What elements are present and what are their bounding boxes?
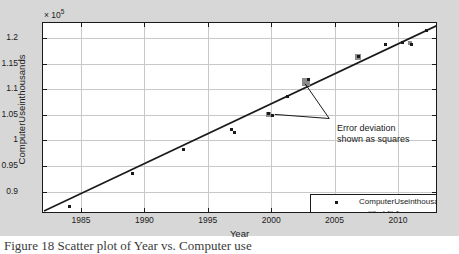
gridline-vertical <box>81 23 82 212</box>
data-point <box>425 29 428 32</box>
y-axis-tick <box>43 192 47 193</box>
y-axis-tick-right <box>432 115 436 116</box>
legend-entry-fit[interactable]: untitled fit 1 <box>311 208 437 213</box>
gridline-vertical <box>398 23 399 212</box>
x-axis-tick <box>144 208 145 212</box>
y-axis-tick-label: 1 <box>13 135 18 144</box>
gridline-vertical <box>271 23 272 212</box>
annotation-label: Error deviation shown as squares <box>337 123 410 145</box>
x-axis-tick-top <box>81 23 82 27</box>
annotation-line-2: shown as squares <box>337 134 410 145</box>
x-axis-tick-top <box>208 23 209 27</box>
y-axis-tick-label: 1.1 <box>6 84 18 93</box>
y-axis-tick-right <box>432 140 436 141</box>
y-axis-exponent-base: 10 <box>51 10 60 20</box>
gridline-vertical <box>208 23 209 212</box>
annotation-line-1: Error deviation <box>337 123 410 134</box>
gridline-horizontal <box>43 38 436 39</box>
data-point <box>307 78 310 81</box>
y-axis-exponent-label: × 105 <box>44 8 64 20</box>
figure-page: × 105 ComputerUseinthousands Year 0.90.9… <box>0 0 459 254</box>
x-axis-tick <box>81 208 82 212</box>
data-point <box>68 205 71 208</box>
y-axis-tick-right <box>432 89 436 90</box>
y-axis-tick-label: 0.9 <box>6 187 18 196</box>
gridline-horizontal <box>43 192 436 193</box>
data-point <box>271 114 274 117</box>
legend-label-fit: untitled fit 1 <box>359 209 400 213</box>
y-axis-exponent-power: 5 <box>61 8 65 15</box>
x-axis-tick <box>208 208 209 212</box>
gridline-vertical <box>144 23 145 212</box>
data-point <box>357 55 360 58</box>
x-axis-tick-top <box>398 23 399 27</box>
y-axis-tick-right <box>432 192 436 193</box>
gridline-vertical <box>335 23 336 212</box>
legend-box[interactable]: ComputerUseinthousands vs. Year untitled… <box>310 194 437 213</box>
legend-label-scatter: ComputerUseinthousands vs. Year <box>359 197 437 206</box>
y-axis-tick-label: 1.15 <box>1 59 18 68</box>
gridline-horizontal <box>43 166 436 167</box>
x-axis-tick-label: 2000 <box>251 216 291 225</box>
figure-caption: Figure 18 Scatter plot of Year vs. Compu… <box>4 238 252 254</box>
x-axis-tick-label: 2010 <box>378 216 418 225</box>
y-axis-tick <box>43 89 47 90</box>
data-point <box>233 131 236 134</box>
y-axis-tick <box>43 64 47 65</box>
y-axis-tick <box>43 140 47 141</box>
y-axis-tick-label: 1.2 <box>6 33 18 42</box>
annotation-leader-layer <box>43 23 437 213</box>
legend-entry-scatter[interactable]: ComputerUseinthousands vs. Year <box>311 196 437 208</box>
y-axis-tick-right <box>432 38 436 39</box>
x-axis-tick-top <box>335 23 336 27</box>
y-axis-tick <box>43 38 47 39</box>
x-axis-tick-label: 2005 <box>315 216 355 225</box>
gridline-horizontal <box>43 89 436 90</box>
plot-area: Error deviation shown as squares Compute… <box>42 22 437 213</box>
y-axis-tick <box>43 166 47 167</box>
y-axis-tick-label: 0.95 <box>1 161 18 170</box>
x-axis-tick-label: 1985 <box>61 216 101 225</box>
x-axis-tick <box>271 208 272 212</box>
data-point <box>267 112 270 115</box>
data-point <box>401 41 404 44</box>
fit-line-layer <box>43 23 437 213</box>
gridline-horizontal <box>43 64 436 65</box>
data-point <box>410 43 413 46</box>
data-point <box>182 148 185 151</box>
fit-line <box>44 26 437 211</box>
x-axis-tick-label: 1995 <box>188 216 228 225</box>
y-axis-tick-right <box>432 64 436 65</box>
matlab-figure-canvas: × 105 ComputerUseinthousands Year 0.90.9… <box>0 0 459 236</box>
y-axis-tick-right <box>432 166 436 167</box>
square-marker-icon <box>335 201 338 204</box>
y-axis-tick <box>43 115 47 116</box>
x-axis-tick-top <box>271 23 272 27</box>
x-axis-tick-top <box>144 23 145 27</box>
data-point <box>286 95 289 98</box>
y-axis-tick-label: 1.05 <box>1 110 18 119</box>
data-point <box>384 43 387 46</box>
gridline-horizontal <box>43 115 436 116</box>
x-axis-tick-label: 1990 <box>124 216 164 225</box>
data-point <box>131 172 134 175</box>
